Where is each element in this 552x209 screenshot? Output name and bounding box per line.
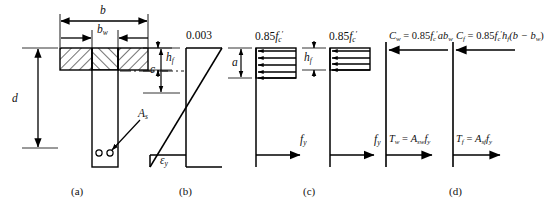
label-hf-flange: hf (304, 52, 312, 64)
panel-d-forces (386, 42, 515, 167)
label-d: d (12, 93, 18, 105)
label-b: b (100, 5, 106, 17)
label-bw: bw (97, 24, 108, 36)
dimension-d (22, 48, 58, 148)
caption-a: (a) (71, 186, 83, 197)
label-085fc-web: 0.85fc′ (255, 31, 283, 43)
label-strain-0003: 0.003 (186, 30, 212, 42)
panel-c-stress (228, 41, 374, 167)
label-fy-web: fy (300, 134, 307, 146)
caption-c: (c) (303, 186, 315, 197)
label-Tf-equation: Tf = Asffy (456, 134, 492, 145)
flange-section (60, 48, 148, 70)
web-stress-block (256, 48, 296, 167)
flange-stress-block (330, 48, 370, 167)
label-hf: hf (166, 52, 174, 64)
label-epsilon-y: εy (160, 155, 168, 167)
label-a-depth: a (232, 57, 238, 69)
caption-b: (b) (179, 186, 192, 197)
label-As: As (138, 108, 148, 120)
caption-d: (d) (449, 186, 462, 197)
label-Cf-equation: Cf = 0.85fc′hf(b − bw) (456, 31, 544, 43)
label-085fc-flange: 0.85fc′ (329, 31, 357, 43)
label-Cw-equation: Cw = 0.85fc′abw (389, 31, 453, 43)
label-Tw-equation: Tw = Aswfy (389, 134, 430, 145)
label-fy-flange: fy (374, 134, 381, 146)
label-c: c (150, 64, 155, 76)
panel-a-cross-section (22, 14, 172, 167)
